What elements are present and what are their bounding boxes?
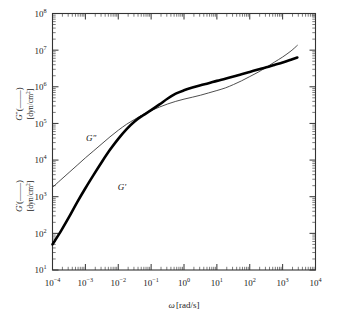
figure-container: 10−410−310−210−1100101102103104 10110210… [0, 0, 337, 319]
chart-background [0, 0, 337, 319]
svg-text:G″(——): G″(——) [14, 87, 24, 120]
y-axis-title-lower: G′(——) [14, 180, 24, 212]
log-log-chart: 10−410−310−210−1100101102103104 10110210… [0, 0, 337, 319]
svg-text:ω[rad/s]: ω[rad/s] [169, 300, 200, 310]
x-axis-title: ω[rad/s] [169, 300, 200, 310]
curve-label: Gʹ [118, 182, 127, 192]
svg-text:G′(——): G′(——) [14, 180, 24, 212]
x-axis-tick-labels: 10−410−310−210−1100101102103104 [45, 276, 322, 288]
y-axis-title-upper: G″(——) [14, 87, 24, 120]
curve-label: Gʺ [86, 133, 96, 143]
